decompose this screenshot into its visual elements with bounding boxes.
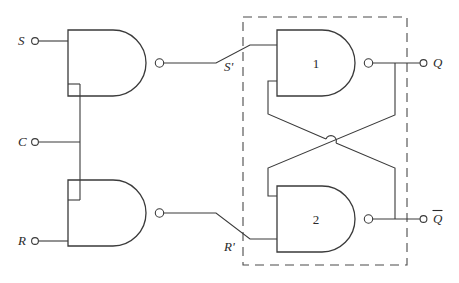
wire-sprime [164, 45, 277, 63]
label-input-c: C [18, 134, 27, 149]
latch-dashed-boundary [243, 17, 407, 265]
circuit-diagram-canvas: 1 2 S C R S' R' Q Q [0, 0, 459, 283]
label-input-s: S [18, 33, 25, 48]
wire-feedback-q-to-gate2 [268, 63, 395, 196]
output-terminal-qbar[interactable] [420, 216, 427, 223]
gate-nand-1-bubble [364, 59, 372, 67]
label-signal-sprime: S' [224, 59, 234, 74]
input-terminal-s[interactable] [32, 38, 39, 45]
gate-nand-s-bubble [155, 59, 163, 67]
gate-nand-2-number: 2 [313, 212, 320, 227]
label-signal-rprime: R' [223, 239, 235, 254]
input-terminal-c[interactable] [32, 139, 39, 146]
label-input-r: R [17, 233, 26, 248]
output-terminal-q[interactable] [420, 60, 427, 67]
input-terminal-r[interactable] [32, 238, 39, 245]
label-output-q: Q [433, 55, 443, 70]
wire-feedback-qbar-to-gate1-seg1 [336, 143, 395, 219]
logic-circuit-figure: 1 2 S C R S' R' Q Q [0, 0, 459, 283]
label-output-qbar: Q [433, 211, 443, 226]
gate-nand-1-number: 1 [313, 56, 320, 71]
wire-rprime [164, 213, 277, 239]
gate-nand-r-bubble [155, 209, 163, 217]
gate-nand-2-bubble [364, 215, 372, 223]
